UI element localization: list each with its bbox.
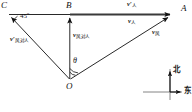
vector-label-v-prime-wind-rel-person: v′风对人 xyxy=(10,36,29,43)
point-label-O: O xyxy=(66,82,73,91)
vector-arrow-v-prime-wind-rel-person xyxy=(12,18,70,80)
vector-diagram-figure: C B A O 45º θ v′人 v人 v风 v′风对人 v风对人 北 东 xyxy=(0,0,192,112)
angle-arc-theta xyxy=(70,69,78,73)
point-label-B: B xyxy=(66,1,72,10)
vector-arrow-v-wind xyxy=(71,18,169,80)
vector-label-v-prime-person: v′人 xyxy=(127,1,137,8)
compass-label-north: 北 xyxy=(173,66,180,74)
compass-label-east: 东 xyxy=(184,87,191,95)
vector-label-v-wind-rel-person: v风对人 xyxy=(73,32,90,39)
vec-subscript: 风对人 xyxy=(76,34,90,39)
vec-subscript: 风 xyxy=(155,31,160,36)
point-label-A: A xyxy=(181,4,187,13)
point-label-C: C xyxy=(1,1,7,10)
vec-subscript: 人 xyxy=(132,3,137,8)
angle-label-theta: θ xyxy=(73,57,77,65)
vec-subscript: 风对人 xyxy=(15,38,29,43)
vec-subscript: 人 xyxy=(131,20,136,25)
right-angle-marker xyxy=(70,72,76,75)
vector-label-v-person: v人 xyxy=(128,18,136,25)
angle-label-45: 45º xyxy=(20,13,29,20)
vector-label-v-wind: v风 xyxy=(152,29,160,36)
